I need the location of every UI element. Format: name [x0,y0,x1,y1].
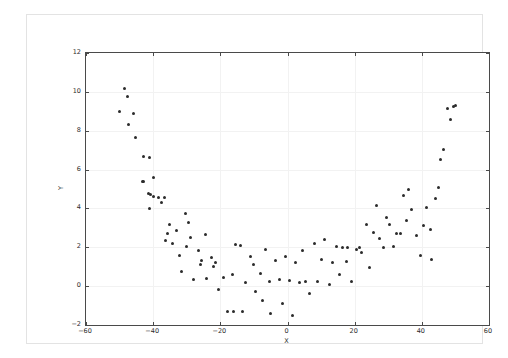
data-point [385,216,388,219]
y-tick-mark [85,247,89,248]
data-point [316,280,319,283]
x-tick-mark-top [220,52,221,56]
data-point [249,255,252,258]
data-point [268,280,271,283]
data-point [395,232,398,235]
gridline-horizontal [86,286,489,287]
data-point [180,270,183,273]
data-point [123,87,126,90]
gridline-horizontal [86,92,489,93]
y-tick-label: 4 [27,203,81,211]
data-point [175,229,178,232]
y-tick-mark [85,92,89,93]
data-point [274,259,277,262]
data-point [284,255,287,258]
data-point [350,280,353,283]
data-point [232,310,235,313]
x-tick-label: 0 [284,327,288,335]
data-point [288,279,291,282]
x-tick-label: 60 [484,327,492,335]
data-point [204,233,207,236]
data-point [163,196,166,199]
x-tick-label: −40 [145,327,159,335]
data-point [301,249,304,252]
x-tick-mark [220,322,221,326]
data-point [239,244,242,247]
data-point [442,148,445,151]
y-tick-mark-right [486,92,490,93]
gridline-vertical [153,53,154,325]
data-point [304,280,307,283]
data-point [346,246,349,249]
x-tick-label: −20 [212,327,226,335]
y-tick-label: −2 [27,320,81,328]
data-point [189,236,192,239]
data-point [405,219,408,222]
y-tick-mark-right [486,131,490,132]
data-point [231,273,234,276]
x-tick-label: 20 [350,327,358,335]
data-point [422,224,425,227]
x-tick-mark [355,322,356,326]
data-point [187,221,190,224]
y-tick-label: 12 [27,48,81,56]
gridline-vertical [422,53,423,325]
data-point [126,95,129,98]
data-point [157,196,160,199]
data-point [402,194,405,197]
data-point [365,223,368,226]
data-point [152,195,155,198]
y-tick-mark-right [486,170,490,171]
x-tick-mark-top [288,52,289,56]
y-tick-label: 2 [27,242,81,250]
data-point [446,107,449,110]
data-point [281,302,284,305]
data-point [142,155,145,158]
data-point [192,278,195,281]
data-point [197,249,200,252]
gridline-vertical [355,53,356,325]
data-point [168,223,171,226]
data-point [127,123,130,126]
data-point [118,110,121,113]
y-tick-mark-right [486,208,490,209]
data-point [244,281,247,284]
gridline-horizontal [86,170,489,171]
data-point [331,261,334,264]
data-point [291,314,294,317]
data-point [341,246,344,249]
data-point [166,232,169,235]
scatter-plot-axes[interactable] [85,52,490,326]
y-tick-mark-right [486,53,490,54]
data-point [259,272,262,275]
data-point [205,277,208,280]
data-point [214,261,217,264]
data-point [345,260,348,263]
data-point [313,242,316,245]
x-tick-mark-top [422,52,423,56]
data-point [278,278,281,281]
data-point [222,276,225,279]
y-tick-mark-right [486,286,490,287]
y-tick-mark [85,170,89,171]
data-point [407,188,410,191]
data-point [382,246,385,249]
data-point [430,258,433,261]
data-point [358,246,361,249]
y-tick-mark [85,325,89,326]
data-point [439,158,442,161]
x-axis-label: X [284,337,288,345]
data-point [241,310,244,313]
data-point [375,204,378,207]
y-tick-label: 10 [27,87,81,95]
gridline-horizontal [86,208,489,209]
data-point [148,207,151,210]
y-tick-label: 6 [27,165,81,173]
data-point [164,239,167,242]
data-point [234,243,237,246]
data-point [388,223,391,226]
data-point [308,292,311,295]
data-point [298,281,301,284]
data-point [454,104,457,107]
data-point [148,156,151,159]
